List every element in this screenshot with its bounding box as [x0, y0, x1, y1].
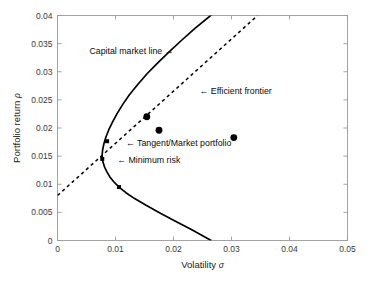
capital-market-line-line — [58, 16, 258, 196]
y-tick-label: 0.01 — [36, 179, 53, 189]
chart-figure: 00.010.020.030.040.05 00.0050.010.0150.0… — [0, 0, 374, 281]
y-tick-label: 0.005 — [31, 207, 53, 217]
efficient-frontier-annotation: ← Efficient frontier — [200, 86, 272, 96]
minimum-risk-marker — [100, 157, 104, 161]
x-tick-label: 0 — [55, 244, 60, 254]
y-tick-label: 0.04 — [36, 11, 53, 21]
data-markers-layer — [100, 113, 237, 189]
y-tick-label: 0.02 — [36, 123, 53, 133]
minimum-risk-annotation: ← Minimum risk — [117, 155, 181, 165]
y-tick-label: 0.035 — [31, 39, 53, 49]
y-tick-label: 0 — [48, 236, 53, 246]
x-tick-label: 0.01 — [107, 244, 124, 254]
tangent-market-portfolio-marker — [105, 139, 109, 143]
frontier-marker-lower — [117, 185, 121, 189]
efficient-frontier-line — [102, 3, 226, 241]
x-tick-label: 0.03 — [223, 244, 240, 254]
x-tick-label: 0.02 — [165, 244, 182, 254]
y-tick-labels: 00.0050.010.0150.020.0250.030.0350.04 — [31, 11, 53, 246]
data-series-layer — [58, 3, 258, 241]
x-tick-label: 0.05 — [339, 244, 356, 254]
x-axis-title: Volatility σ — [181, 259, 225, 270]
y-tick-label: 0.03 — [36, 67, 53, 77]
capital-market-line-annotation: Capital market line → — [89, 46, 173, 56]
y-tick-label: 0.025 — [31, 95, 53, 105]
tangent-market-portfolio-annotation: ← Tangent/Market portfolio — [126, 138, 232, 148]
asset-dot-left — [156, 127, 163, 134]
x-tick-labels: 00.010.020.030.040.05 — [55, 244, 356, 254]
annotations-layer: Capital market line →← Efficient frontie… — [89, 46, 271, 165]
asset-dot-upper — [143, 113, 150, 120]
y-tick-label: 0.015 — [31, 151, 53, 161]
y-axis-title: Portfolio return ρ — [11, 93, 22, 163]
asset-dot-right — [230, 134, 237, 141]
x-tick-label: 0.04 — [281, 244, 298, 254]
efficient-frontier-plot: 00.010.020.030.040.05 00.0050.010.0150.0… — [0, 0, 374, 281]
